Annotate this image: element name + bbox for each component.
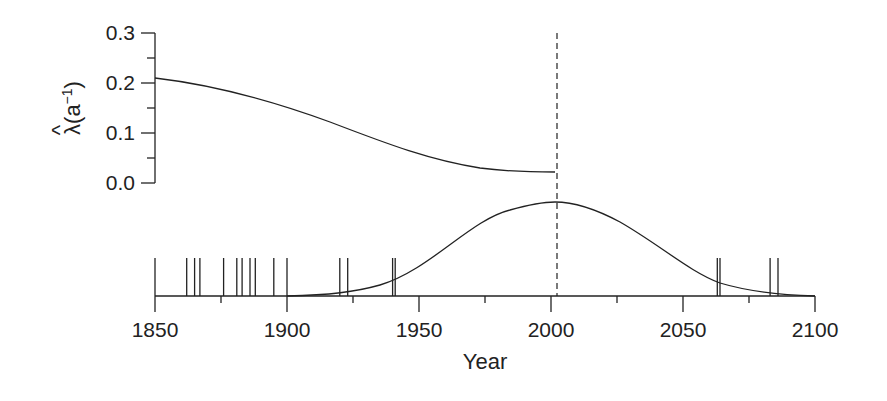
x-tick-label: 2050	[660, 318, 707, 341]
upper-y-axis	[141, 33, 155, 183]
x-tick-label: 2100	[792, 318, 839, 341]
x-axis	[155, 296, 815, 312]
rate-curve	[155, 78, 555, 172]
figure: 0.3 0.2 0.1 0.0 λ(a−1) ^ 1850 1900 1950 …	[0, 0, 887, 401]
y-tick-label: 0.1	[106, 121, 135, 144]
y-tick-label: 0.2	[106, 71, 135, 94]
y-axis-title-close: )	[60, 81, 85, 88]
y-axis-title-hat: ^	[47, 124, 72, 135]
y-tick-label: 0.0	[106, 171, 135, 194]
x-tick-label: 1950	[396, 318, 443, 341]
density-curve	[287, 202, 815, 296]
y-axis-title: λ(a−1) ^	[47, 81, 85, 135]
x-tick-labels: 1850 1900 1950 2000 2050 2100	[132, 318, 839, 341]
x-tick-label: 1900	[264, 318, 311, 341]
x-tick-label: 2000	[528, 318, 575, 341]
x-tick-label: 1850	[132, 318, 179, 341]
upper-y-tick-labels: 0.3 0.2 0.1 0.0	[106, 21, 135, 194]
y-tick-label: 0.3	[106, 21, 135, 44]
x-axis-title: Year	[463, 349, 507, 374]
y-axis-title-unit: (a	[60, 104, 85, 124]
y-axis-title-exponent: −1	[59, 88, 75, 104]
